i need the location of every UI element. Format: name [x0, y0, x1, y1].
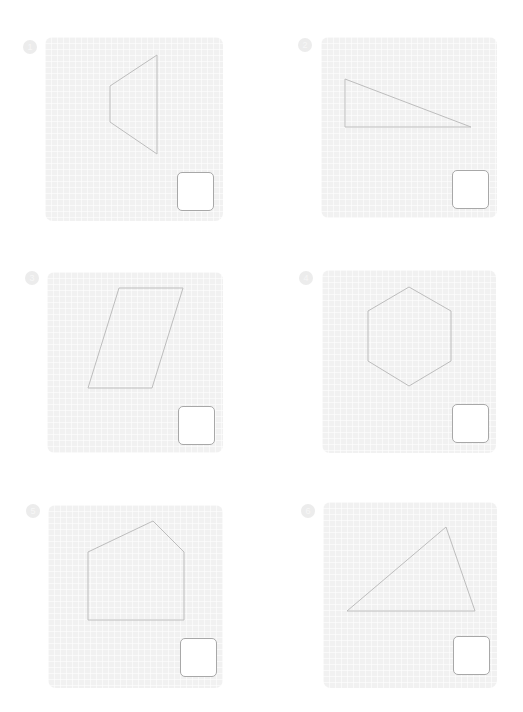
problem-number-badge: 5: [26, 504, 40, 518]
problem-number-badge: 4: [299, 271, 313, 285]
answer-box-5[interactable]: [180, 638, 217, 677]
answer-box-1[interactable]: [177, 172, 214, 211]
answer-box-2[interactable]: [452, 170, 489, 209]
answer-box-6[interactable]: [453, 636, 490, 675]
problem-number-badge: 3: [25, 271, 39, 285]
answer-box-4[interactable]: [452, 404, 489, 443]
answer-box-3[interactable]: [178, 406, 215, 445]
problem-number-badge: 1: [23, 40, 37, 54]
problem-number-badge: 6: [301, 504, 315, 518]
problem-number-badge: 2: [298, 38, 312, 52]
